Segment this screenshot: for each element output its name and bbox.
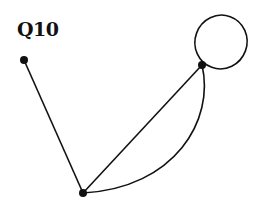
edge-a-c bbox=[24, 60, 83, 193]
vertex-a bbox=[20, 56, 28, 64]
edge-b-loop bbox=[187, 8, 254, 77]
vertex-c bbox=[79, 189, 87, 197]
edge-b-c-straight bbox=[83, 65, 202, 193]
vertex-b bbox=[198, 61, 206, 69]
graph-diagram bbox=[0, 0, 265, 218]
